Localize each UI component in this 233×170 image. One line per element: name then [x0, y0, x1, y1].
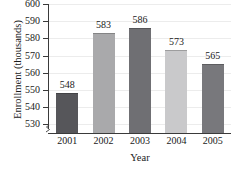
x-axis-tick-label: 2001: [49, 136, 85, 146]
x-axis-tick-label: 2005: [195, 136, 231, 146]
bar-value-label: 565: [187, 51, 233, 61]
y-axis-tick-label: 600: [16, 0, 40, 9]
y-axis-tick-label: 570: [16, 51, 40, 61]
bar-slot: 586: [122, 4, 158, 133]
y-axis-tick-labels: 530540550560570580590600: [16, 0, 40, 170]
x-axis-tick-labels: 20012002200320042005: [49, 136, 231, 150]
x-axis-line: [48, 133, 231, 134]
bar[interactable]: [56, 93, 78, 133]
y-axis-tick-label: 530: [16, 119, 40, 129]
y-axis-tick-label: 540: [16, 102, 40, 112]
bar-slot: 565: [195, 4, 231, 133]
bar[interactable]: [93, 33, 115, 133]
plot-area: 548583586573565: [49, 4, 231, 133]
bar-slot: 573: [158, 4, 194, 133]
bar[interactable]: [129, 28, 151, 133]
y-axis-tick-label: 590: [16, 16, 40, 26]
y-axis-tick-label: 550: [16, 85, 40, 95]
bar-series: 548583586573565: [49, 4, 231, 133]
y-axis-tick-label: 560: [16, 68, 40, 78]
bar-chart: Enrollment (thousands) 53054055056057058…: [0, 0, 233, 170]
bar[interactable]: [202, 64, 224, 133]
y-axis-tick-label: 580: [16, 33, 40, 43]
bar[interactable]: [165, 50, 187, 133]
x-axis-tick-label: 2004: [158, 136, 194, 146]
x-axis-tick-label: 2003: [122, 136, 158, 146]
x-axis-tick-label: 2002: [85, 136, 121, 146]
x-axis-title: Year: [49, 152, 231, 163]
